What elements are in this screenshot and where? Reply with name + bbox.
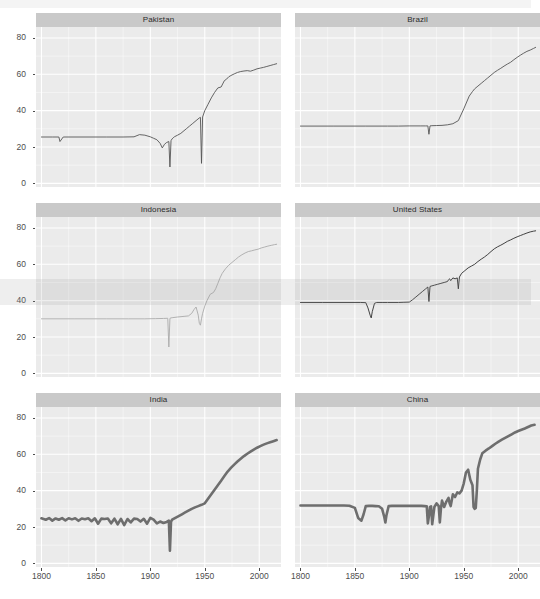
x-axis-tick-label: 1800: [280, 572, 320, 581]
y-axis-tick-mark: [33, 111, 36, 112]
panel-plot-area: [36, 407, 281, 567]
y-axis-tick-label: 0: [4, 369, 26, 378]
facet-panel-indonesia: Indonesia: [36, 203, 281, 377]
y-axis-tick-mark: [33, 38, 36, 39]
facet-panel-brazil: Brazil: [295, 13, 540, 187]
y-axis-tick-mark: [33, 373, 36, 374]
y-axis-tick-mark: [33, 301, 36, 302]
panel-plot-area: [36, 27, 281, 187]
y-axis-tick-label: 20: [4, 143, 26, 152]
series-line: [300, 425, 534, 524]
series-line: [300, 231, 535, 318]
y-axis-tick-mark: [33, 418, 36, 419]
panel-strip: Brazil: [295, 13, 540, 27]
y-axis-tick-mark: [33, 337, 36, 338]
y-axis-tick-label: 20: [4, 333, 26, 342]
y-axis-tick-label: 80: [4, 223, 26, 232]
x-axis-tick-label: 1950: [185, 572, 225, 581]
x-axis-tick-label: 1850: [76, 572, 116, 581]
panel-strip: United States: [295, 203, 540, 217]
panel-plot-area: [295, 27, 540, 187]
y-axis-tick-mark: [33, 264, 36, 265]
panel-strip-label: India: [150, 396, 168, 404]
y-axis-tick-label: 0: [4, 179, 26, 188]
panel-strip-label: China: [407, 396, 428, 404]
y-axis-tick-label: 80: [4, 413, 26, 422]
y-axis-tick-mark: [33, 74, 36, 75]
facet-panel-india: India: [36, 393, 281, 567]
panel-plot-area: [36, 217, 281, 377]
y-axis-tick-mark: [33, 527, 36, 528]
series-line: [41, 64, 276, 167]
x-axis-tick-label: 1900: [130, 572, 170, 581]
x-axis-tick-label: 1850: [335, 572, 375, 581]
y-axis-tick-label: 60: [4, 70, 26, 79]
facet-panel-china: China: [295, 393, 540, 567]
x-axis-tick-label: 1900: [389, 572, 429, 581]
y-axis-tick-mark: [33, 147, 36, 148]
y-axis-tick-mark: [33, 491, 36, 492]
panel-strip-label: United States: [393, 206, 442, 214]
panel-strip: Pakistan: [36, 13, 281, 27]
facet-panel-united-states: United States: [295, 203, 540, 377]
y-axis-tick-mark: [33, 228, 36, 229]
panel-strip: Indonesia: [36, 203, 281, 217]
panel-plot-area: [295, 217, 540, 377]
x-axis-tick-label: 2000: [498, 572, 538, 581]
y-axis-tick-label: 40: [4, 106, 26, 115]
facet-panel-pakistan: Pakistan: [36, 13, 281, 187]
y-axis-tick-label: 80: [4, 33, 26, 42]
series-line: [300, 47, 535, 134]
y-axis-tick-mark: [33, 563, 36, 564]
x-axis-tick-label: 1800: [21, 572, 61, 581]
y-axis-tick-label: 60: [4, 260, 26, 269]
y-axis-tick-label: 0: [4, 559, 26, 568]
y-axis-tick-label: 40: [4, 486, 26, 495]
series-line: [41, 244, 276, 347]
panel-strip: India: [36, 393, 281, 407]
panel-strip-label: Brazil: [407, 16, 428, 24]
panel-strip-label: Pakistan: [143, 16, 174, 24]
y-axis-tick-label: 20: [4, 523, 26, 532]
x-axis-tick-label: 2000: [239, 572, 279, 581]
x-axis-tick-label: 1950: [444, 572, 484, 581]
y-axis-tick-label: 60: [4, 450, 26, 459]
y-axis-tick-mark: [33, 454, 36, 455]
y-axis-tick-mark: [33, 183, 36, 184]
panel-strip: China: [295, 393, 540, 407]
y-axis-tick-label: 40: [4, 296, 26, 305]
panel-plot-area: [295, 407, 540, 567]
panel-strip-label: Indonesia: [141, 206, 177, 214]
series-line: [41, 440, 276, 551]
